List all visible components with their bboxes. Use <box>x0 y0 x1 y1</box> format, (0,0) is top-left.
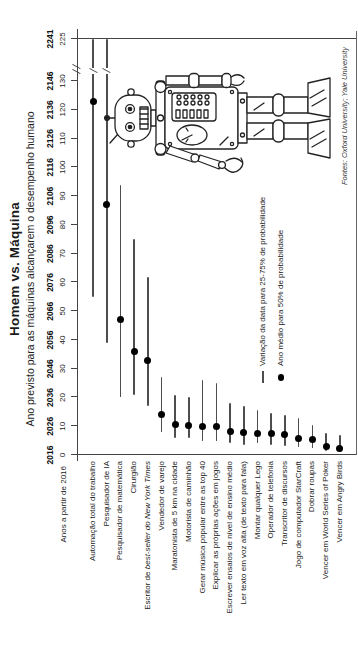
axis-tick <box>71 38 77 39</box>
robot-claw-icon <box>231 81 244 85</box>
range-line <box>92 39 94 297</box>
rotated-chart-page: Homem vs. Máquina Ano previsto para as m… <box>0 0 358 659</box>
task-label: Escrever ensaios de nível de ensino médi… <box>225 461 234 659</box>
range-line <box>229 403 231 443</box>
median-dot <box>240 429 247 436</box>
axis-tick <box>71 138 77 139</box>
median-dot <box>268 431 275 438</box>
chart-title: Homem vs. Máquina <box>7 39 22 499</box>
median-dot <box>281 431 288 438</box>
axis-tick <box>71 281 77 282</box>
axis-tick <box>71 396 77 397</box>
legend-item-label: Ano médio para 50% de probabilidade <box>276 230 285 366</box>
task-label: Explicar as próprias ações em jogos <box>211 461 220 659</box>
task-label: Automação total do trabalho <box>88 461 97 659</box>
median-dot <box>323 443 330 450</box>
median-dot <box>131 348 138 355</box>
median-dot <box>144 357 151 364</box>
range-line <box>161 377 163 432</box>
task-label: Transcritor de discursos <box>280 461 289 659</box>
legend-dot-symbol <box>278 375 285 382</box>
axis-tick <box>71 425 77 426</box>
range-line <box>188 397 190 437</box>
median-dot <box>254 430 261 437</box>
median-dot <box>90 98 97 105</box>
task-label: Montar qualquer Lego <box>253 461 262 659</box>
legend-range-symbol <box>262 371 264 383</box>
median-dot <box>295 435 302 442</box>
robot-mouth-grill-icon <box>140 107 148 129</box>
median-dot <box>199 423 206 430</box>
median-dot <box>172 421 179 428</box>
axis-tick <box>71 80 77 81</box>
median-dot <box>185 422 192 429</box>
median-dot <box>309 436 316 443</box>
task-label: Cirurgião <box>129 461 138 659</box>
offset-tick-label: 225 <box>58 22 67 56</box>
offset-tick-label: 130 <box>58 64 67 98</box>
task-label: Escritor de best-seller do New York Time… <box>143 461 152 659</box>
year-tick-label: 2146 <box>45 64 55 98</box>
source-caption: Fontes: Oxford University; Yale Universi… <box>340 47 349 369</box>
task-label: Pesquisador de IA <box>102 461 111 659</box>
range-line <box>133 239 135 394</box>
axis-tick <box>71 195 77 196</box>
range-line <box>120 185 122 398</box>
range-line <box>270 413 272 445</box>
median-dot <box>117 316 124 323</box>
task-label: Operador de telefonia <box>266 461 275 659</box>
robot-illustration <box>104 47 338 189</box>
x-axis-line <box>77 29 78 461</box>
median-dot <box>213 423 220 430</box>
plot-border-right-2241 <box>77 38 356 39</box>
range-line <box>147 277 149 406</box>
year-tick-label: 2241 <box>45 22 55 56</box>
axis-tick <box>71 109 77 110</box>
task-label: Motorista de caminhão <box>184 461 193 659</box>
median-dot <box>227 428 234 435</box>
task-label: Ler texto em voz alta (de texto para fal… <box>239 461 248 659</box>
axis-tick <box>71 368 77 369</box>
task-label: Dobrar roupas <box>307 461 316 659</box>
axis-tick <box>71 339 77 340</box>
legend-item-label: Variação da data para 25-75% de probabil… <box>258 197 267 366</box>
median-dot <box>336 445 343 452</box>
chart-stage: Homem vs. Máquina Ano previsto para as m… <box>0 0 358 659</box>
range-line <box>298 418 300 448</box>
range-line <box>174 395 176 438</box>
axis-tick <box>71 310 77 311</box>
axis-tick <box>71 454 77 455</box>
range-line <box>202 380 204 440</box>
task-label: Pesquisador de matemática <box>115 461 124 659</box>
range-line <box>216 383 218 441</box>
task-label: Vencer em World Series of Poker <box>321 461 330 659</box>
median-dot <box>103 201 110 208</box>
plot-border-bottom <box>356 31 357 455</box>
task-label: Vencer em Angry Birds <box>335 461 344 659</box>
range-line <box>257 410 259 443</box>
axis-tick <box>71 224 77 225</box>
x-axis-title: Anos a partir de 2016 <box>59 466 68 599</box>
task-label: Jogo de computador StarCraft <box>294 461 303 659</box>
plot-border-left <box>77 454 356 455</box>
task-label: Vendedor de varejo <box>157 461 166 659</box>
range-line <box>243 406 245 445</box>
task-label: Gerar música popular entre as top 40 <box>198 461 207 659</box>
axis-tick <box>71 166 77 167</box>
chart-subtitle: Ano previsto para as máquinas alcançarem… <box>24 0 36 539</box>
task-label: Maratonista de 5 km na cidade <box>170 461 179 659</box>
median-dot <box>158 411 165 418</box>
axis-tick <box>71 253 77 254</box>
